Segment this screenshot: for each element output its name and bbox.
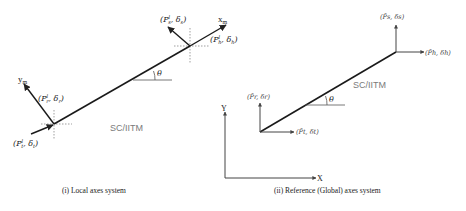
caption-global: (ii) Reference (Global) axes system bbox=[274, 186, 381, 195]
label-pt-local: (Plt, δt) bbox=[13, 138, 38, 149]
label-ph-global: (P̄h, δh) bbox=[425, 49, 451, 57]
theta-arc-global bbox=[326, 96, 328, 105]
theta-label: θ bbox=[157, 69, 162, 78]
caption-local: (i) Local axes system bbox=[62, 186, 126, 195]
diagram-canvas: θ SC/IITM xm ym (Pls, δs) (Plh, δh) (Plr… bbox=[0, 0, 466, 211]
local-axes-panel: θ SC/IITM xm ym (Pls, δs) (Plh, δh) (Plr… bbox=[13, 14, 238, 195]
theta-label-global: θ bbox=[329, 95, 334, 104]
global-y-label: Y bbox=[221, 104, 227, 113]
label-ph-local: (Plh, δh) bbox=[210, 34, 238, 45]
label-pr-local: (Plr, δr) bbox=[38, 93, 64, 104]
pt-arrow bbox=[31, 125, 53, 134]
member-label: SC/IITM bbox=[110, 123, 143, 133]
tail-crosshair bbox=[41, 110, 72, 140]
label-ps-global: (P̄s, δs) bbox=[380, 13, 405, 21]
member-line-local bbox=[54, 46, 190, 124]
member-line-global bbox=[260, 52, 396, 132]
theta-arc bbox=[154, 71, 156, 80]
ps-arrow bbox=[168, 27, 190, 46]
xm-label: xm bbox=[218, 14, 228, 25]
global-x-label: X bbox=[317, 174, 323, 183]
ym-label: ym bbox=[18, 74, 28, 85]
global-axes-panel: Y X θ SC/IITM (P̄s, δs) (P̄h, δh) (P̄r, … bbox=[221, 13, 451, 195]
label-pr-global: (P̄r, δr) bbox=[247, 93, 270, 101]
member-label-global: SC/IITM bbox=[353, 80, 386, 90]
ym-axis-arrow bbox=[24, 84, 54, 124]
label-ps-local: (Pls, δs) bbox=[160, 14, 186, 25]
label-pt-global: (P̄t, δt) bbox=[296, 128, 319, 136]
